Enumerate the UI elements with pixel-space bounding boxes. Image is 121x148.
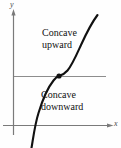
y-axis-label: y xyxy=(10,1,14,9)
concave-downward-label: Concave downward xyxy=(41,89,83,112)
figure-canvas xyxy=(0,0,121,148)
x-axis-arrowhead xyxy=(107,123,114,127)
concave-upward-label: Concave upward xyxy=(42,27,77,50)
inflection-point-marker xyxy=(56,73,61,78)
concave-downward-line-1: Concave xyxy=(41,89,83,101)
concavity-figure: y x Concave upward Concave downward xyxy=(0,0,121,148)
concave-upward-line-2: upward xyxy=(42,39,77,51)
concave-downward-line-2: downward xyxy=(41,101,83,113)
concave-upward-line-1: Concave xyxy=(42,27,77,39)
x-axis-label: x xyxy=(114,120,118,128)
y-axis-arrowhead xyxy=(11,9,15,16)
